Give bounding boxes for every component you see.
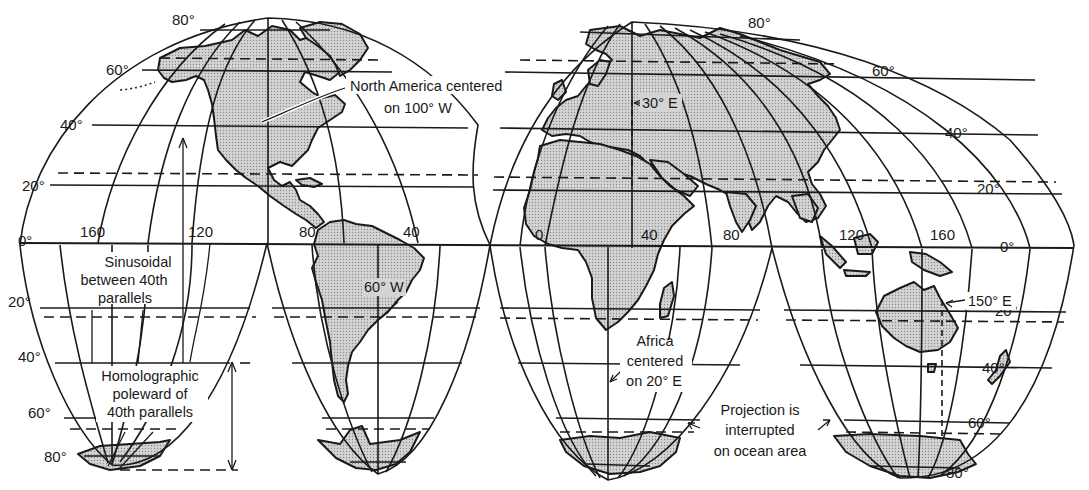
lat-label-60s-right: 60° — [968, 414, 991, 431]
annotation-sinusoidal-line1: Sinusoidal — [105, 254, 172, 270]
land-java — [844, 270, 870, 276]
lat-label-60s-left: 60° — [28, 404, 51, 421]
annotation-sinusoidal-line2: between 40th — [80, 272, 167, 288]
annotation-africa-line1: Africa — [636, 333, 674, 349]
goode-homolosine-map: 80° 60° 40° 20° 0° 20° 40° 60° 80° 80° 6… — [0, 0, 1089, 490]
lat-label-20n-left: 20° — [22, 177, 45, 194]
annotation-north-america-line2: on 100° W — [384, 100, 452, 116]
annotation-homolographic-line1: Homolographic — [101, 368, 199, 384]
lat-label-40n-left: 40° — [60, 116, 83, 133]
annotation-homolographic-line3: 40th parallels — [107, 404, 193, 420]
lat-label-0-left: 0° — [18, 232, 32, 249]
lon-label-160w: 160 — [80, 223, 105, 240]
lon-label-160e: 160 — [930, 226, 955, 243]
land-australia — [876, 282, 958, 352]
lat-label-60n-left: 60° — [106, 61, 129, 78]
lat-label-60n-right: 60° — [872, 62, 895, 79]
lon-label-40w: 40 — [403, 223, 420, 240]
annotation-60w: 60° W — [364, 279, 404, 295]
lon-label-120w: 120 — [188, 223, 213, 240]
lat-label-80n-left: 80° — [172, 11, 195, 28]
annotation-interrupted-line2: interrupted — [725, 422, 794, 438]
annotation-africa-line2: centered — [627, 353, 683, 369]
land-madagascar — [660, 282, 674, 318]
lon-label-0: 0 — [535, 226, 543, 243]
annotation-interrupted-line3: on ocean area — [714, 443, 808, 459]
lat-label-80s-right: 80° — [946, 464, 969, 481]
lat-label-40n-right: 40° — [945, 124, 968, 141]
annotation-north-america-line1: North America centered — [350, 78, 502, 94]
lat-label-20n-right: 20° — [977, 180, 1000, 197]
lat-label-40s-right: 40° — [982, 359, 1005, 376]
lat-label-80s-left: 80° — [44, 448, 67, 465]
dotted-boundary — [120, 82, 155, 90]
lat-label-20s-left: 20° — [8, 293, 31, 310]
annotation-sinusoidal-line3: parallels — [98, 290, 152, 306]
land-new-guinea — [910, 252, 952, 276]
annotation-30e: 30° E — [642, 95, 678, 111]
lat-label-40s-left: 40° — [18, 348, 41, 365]
lon-label-120e: 120 — [839, 226, 864, 243]
land-tasmania — [928, 364, 936, 372]
annotation-homolographic-line2: poleward of — [113, 386, 189, 402]
annotation-africa-line3: on 20° E — [626, 373, 682, 389]
annotation-150e: 150° E — [968, 293, 1012, 309]
lat-label-0-right: 0° — [1000, 238, 1014, 255]
lat-label-80n-right: 80° — [748, 14, 771, 31]
annotation-interrupted-line1: Projection is — [721, 402, 800, 418]
lon-label-80e: 80 — [723, 226, 740, 243]
land-south-america — [312, 220, 424, 402]
lon-label-80w: 80 — [299, 223, 316, 240]
land-british-isles — [552, 80, 566, 100]
lon-label-40e: 40 — [641, 226, 658, 243]
